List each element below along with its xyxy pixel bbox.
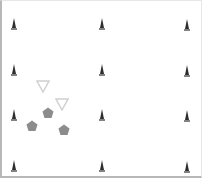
cone-marker-icon — [11, 62, 17, 74]
pentagon-piece-icon[interactable] — [42, 105, 54, 117]
pentagon-piece-icon[interactable] — [26, 118, 38, 130]
cone-marker-icon — [99, 158, 105, 170]
pentagon-piece-icon[interactable] — [58, 122, 70, 134]
cone-marker-icon — [11, 158, 17, 170]
triangle-piece-icon[interactable] — [36, 79, 50, 93]
cone-marker-icon — [184, 63, 190, 75]
cone-marker-icon — [184, 159, 190, 171]
triangle-piece-icon[interactable] — [55, 97, 69, 111]
cone-marker-icon — [11, 107, 17, 119]
cone-marker-icon — [99, 107, 105, 119]
cone-marker-icon — [99, 16, 105, 28]
cone-marker-icon — [11, 16, 17, 28]
cone-marker-icon — [184, 17, 190, 29]
cone-marker-icon — [184, 108, 190, 120]
cone-marker-icon — [99, 62, 105, 74]
